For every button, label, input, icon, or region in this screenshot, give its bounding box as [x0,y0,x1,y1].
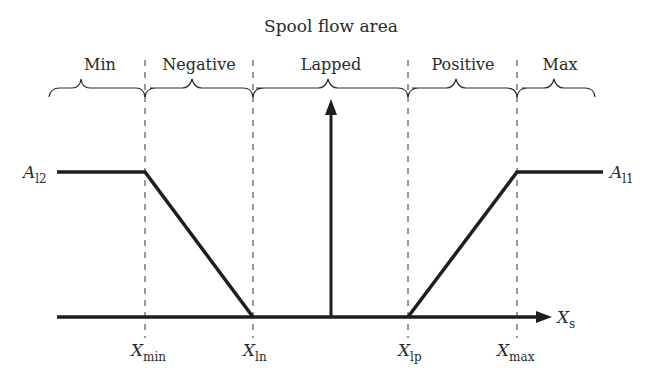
region-label-negative: Negative [162,55,235,74]
diagram-title: Spool flow area [264,16,398,36]
xs-axis-arrowhead-icon [536,311,552,323]
region-braces-clean [49,79,595,97]
spool-flow-area-diagram: Spool flow area Min Negative Lapped Posi… [0,0,648,380]
region-label-positive: Positive [431,55,494,74]
axis-label-xs: Xs [555,307,575,331]
level-label-left: Al2 [21,162,47,186]
negative-side-curve [57,172,253,317]
center-axis-arrowhead-icon [325,99,337,115]
region-label-max: Max [543,55,578,74]
tick-label-xmax: Xmax [495,340,535,364]
region-label-lapped: Lapped [301,55,361,74]
positive-side-curve [408,172,603,317]
level-label-right: Al1 [608,162,634,186]
region-label-min: Min [84,55,116,74]
tick-label-xln: Xln [241,340,267,364]
tick-label-xlp: Xlp [396,340,422,364]
tick-label-xmin: Xmin [129,340,166,364]
